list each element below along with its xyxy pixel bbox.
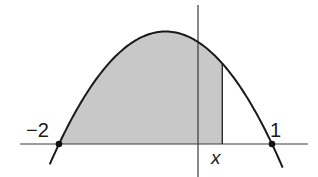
right-root-point xyxy=(269,141,276,148)
left-root-label: −2 xyxy=(26,119,49,141)
x-variable-label: x xyxy=(210,147,222,168)
right-root-label: 1 xyxy=(270,119,281,141)
left-root-point xyxy=(56,141,63,148)
parabola-area-diagram: −2 1 x xyxy=(0,0,318,177)
